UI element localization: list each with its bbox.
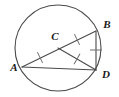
segment-ad-chord	[22, 67, 96, 70]
geometry-diagram-canvas: A B C D	[0, 0, 119, 97]
vertex-label-c: C	[51, 30, 59, 42]
tick-mark-cd	[74, 54, 80, 64]
vertex-label-b: B	[102, 18, 110, 30]
geometry-figure: A B C D	[0, 0, 119, 97]
vertex-label-a: A	[9, 61, 17, 73]
vertex-label-d: D	[101, 68, 110, 80]
